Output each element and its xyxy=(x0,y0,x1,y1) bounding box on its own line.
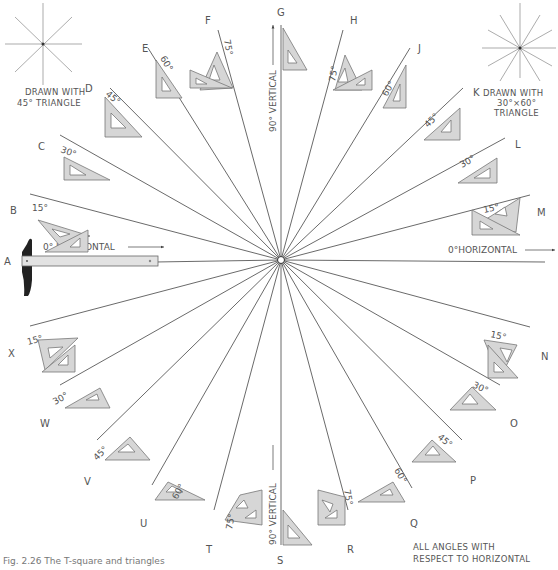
letter-O: O xyxy=(510,418,518,429)
letter-E: E xyxy=(142,43,148,54)
letter-B: B xyxy=(10,205,17,216)
letter-K: K xyxy=(473,87,480,98)
letter-W: W xyxy=(40,418,50,429)
left-star-note-line1: DRAWN WITH xyxy=(25,87,85,97)
angle-T: 75° xyxy=(224,513,237,530)
vertical-label-bottom: 90° VERTICAL xyxy=(268,483,278,545)
letter-X: X xyxy=(8,348,15,359)
letter-T: T xyxy=(205,544,213,555)
letter-P: P xyxy=(470,475,476,486)
right-star-note-line1: DRAWN WITH xyxy=(483,88,543,98)
letter-A: A xyxy=(4,256,11,267)
horizontal-label-right: 0°HORIZONTAL xyxy=(448,245,517,255)
letter-S: S xyxy=(277,555,283,566)
note-bottom-right-line2: RESPECT TO HORIZONTAL xyxy=(413,554,530,564)
letter-V: V xyxy=(84,476,91,487)
triangle-angles-diagram: DRAWN WITH 45° TRIANGLE DRAWN WITH 30°×6… xyxy=(0,0,558,570)
figure-caption: Fig. 2.26 The T-square and triangles xyxy=(3,556,165,566)
angle-K: 45° xyxy=(422,111,440,129)
angle-Q: 60° xyxy=(392,466,409,485)
letter-U: U xyxy=(140,518,147,529)
angle-W: 30° xyxy=(51,390,70,407)
triangles xyxy=(38,28,520,545)
angle-C: 30° xyxy=(59,144,77,159)
letter-M: M xyxy=(537,207,546,218)
letter-L: L xyxy=(515,139,521,150)
note-bottom-right-line1: ALL ANGLES WITH xyxy=(413,542,495,552)
star-30x60-triangle-icon xyxy=(482,3,556,81)
letter-J: J xyxy=(417,43,421,54)
letter-H: H xyxy=(350,15,358,26)
letter-R: R xyxy=(347,544,354,555)
letter-D: D xyxy=(85,83,93,94)
right-star-note-line2: 30°×60° xyxy=(497,98,536,108)
center-point xyxy=(278,257,285,264)
letter-Q: Q xyxy=(410,518,418,529)
star-45-triangle-icon xyxy=(5,3,82,85)
angle-N: 15° xyxy=(490,329,508,342)
vertical-label-top: 90° VERTICAL xyxy=(268,70,278,132)
letter-F: F xyxy=(205,15,211,26)
letter-N: N xyxy=(541,351,548,362)
angle-B: 15° xyxy=(32,203,48,213)
right-star-note-line3: TRIANGLE xyxy=(493,108,539,118)
left-star-note-line2: 45° TRIANGLE xyxy=(17,98,81,108)
angle-L: 30° xyxy=(458,153,477,170)
angle-F: 75° xyxy=(222,39,235,56)
letter-G: G xyxy=(277,7,285,18)
letter-C: C xyxy=(38,141,45,152)
